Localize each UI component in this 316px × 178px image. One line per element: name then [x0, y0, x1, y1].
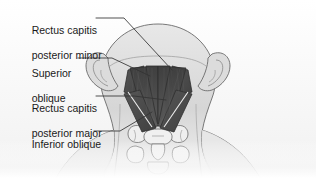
label-line-1: Inferior oblique [32, 138, 101, 150]
label-line-1: Rectus capitis [32, 24, 97, 36]
label-line-1: Superior [32, 67, 72, 79]
anatomy-figure: Rectus capitis posterior minor Superior … [0, 0, 316, 178]
label-inferior-oblique: Inferior oblique [20, 125, 101, 163]
label-line-1: Rectus capitis [32, 102, 97, 114]
